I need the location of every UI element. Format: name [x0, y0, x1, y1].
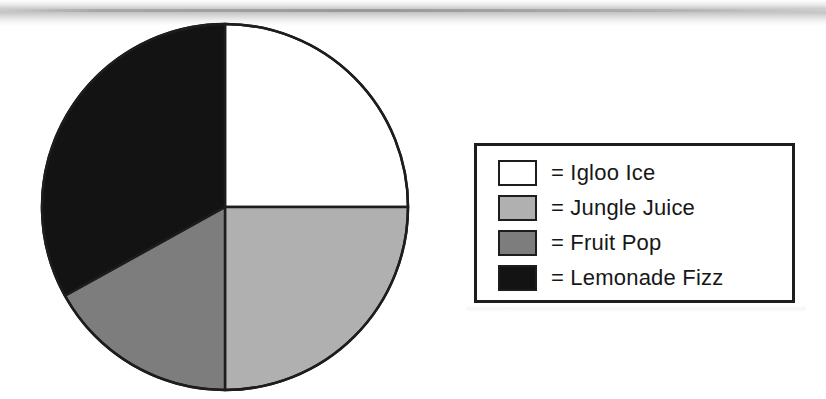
legend-label: = Igloo Ice	[551, 162, 655, 184]
legend-rows: = Igloo Ice= Jungle Juice= Fruit Pop= Le…	[498, 155, 778, 295]
swatch-lemonade-fizz	[498, 265, 537, 291]
pie-chart-page: = Igloo Ice= Jungle Juice= Fruit Pop= Le…	[0, 0, 826, 399]
legend-row[interactable]: = Lemonade Fizz	[498, 260, 778, 295]
legend-row[interactable]: = Igloo Ice	[498, 155, 778, 190]
pie-slice-jungle-juice[interactable]	[225, 207, 408, 390]
pie-chart	[38, 21, 412, 395]
swatch-fruit-pop	[498, 230, 537, 256]
legend-box: = Igloo Ice= Jungle Juice= Fruit Pop= Le…	[474, 143, 795, 303]
scan-edge-line	[0, 9, 826, 12]
legend-label: = Fruit Pop	[551, 232, 661, 254]
legend-row[interactable]: = Fruit Pop	[498, 225, 778, 260]
pie-slice-group	[42, 24, 408, 390]
legend-label: = Lemonade Fizz	[551, 267, 723, 289]
swatch-igloo-ice	[498, 160, 537, 186]
legend-label: = Jungle Juice	[551, 197, 695, 219]
scan-bottom-artifact	[466, 306, 806, 312]
pie-slice-igloo-ice[interactable]	[225, 24, 408, 207]
pie-chart-svg	[38, 21, 412, 395]
swatch-jungle-juice	[498, 195, 537, 221]
legend-row[interactable]: = Jungle Juice	[498, 190, 778, 225]
